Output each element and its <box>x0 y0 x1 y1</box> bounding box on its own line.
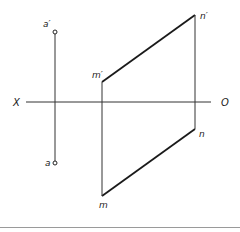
label-a-prime: a′ <box>43 19 51 29</box>
axis-label-x: X <box>12 97 21 108</box>
label-n-prime: n′ <box>200 11 208 21</box>
line-m-n <box>102 129 195 196</box>
label-m: m <box>99 200 108 210</box>
diagram-canvas: X O a′ a m′ m n′ n <box>0 0 240 232</box>
projection-diagram: X O a′ a m′ m n′ n <box>0 0 240 232</box>
axis-label-o: O <box>221 97 229 108</box>
label-a: a <box>45 158 51 168</box>
point-a-prime-marker <box>53 30 57 34</box>
line-m-prime-n-prime <box>102 15 195 82</box>
point-a-marker <box>53 161 57 165</box>
label-m-prime: m′ <box>92 70 103 80</box>
label-n: n <box>199 129 205 139</box>
